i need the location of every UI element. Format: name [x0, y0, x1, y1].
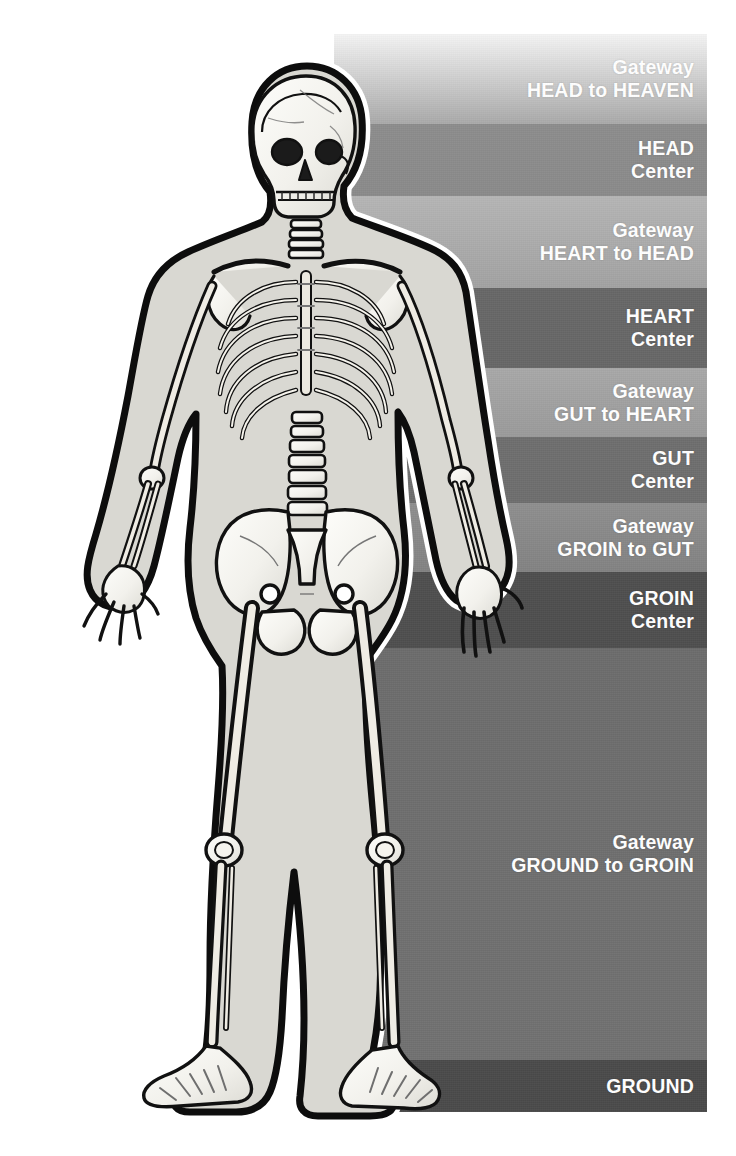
- band-label-primary: Gateway: [612, 56, 694, 79]
- band-label-primary: HEAD: [638, 137, 694, 160]
- band-label-primary: Gateway: [612, 515, 694, 538]
- cervical-vertebrae: [289, 220, 323, 258]
- diagram-canvas: GatewayHEAD to HEAVENHEADCenterGatewayHE…: [0, 0, 736, 1156]
- band-label-primary: Gateway: [612, 831, 694, 854]
- band-label-secondary: Center: [631, 328, 694, 351]
- band-label-primary: GUT: [652, 447, 694, 470]
- band-label-primary: GROIN: [629, 587, 694, 610]
- band-label-secondary: Center: [631, 470, 694, 493]
- band-label-primary: GROUND: [606, 1075, 694, 1098]
- human-skeleton-illustration: [0, 60, 600, 1130]
- band-label-primary: Gateway: [612, 219, 694, 242]
- thoracic-lumbar-vertebrae: [288, 412, 327, 515]
- band-label-secondary: Center: [631, 160, 694, 183]
- band-label-primary: HEART: [626, 305, 694, 328]
- band-label-primary: Gateway: [612, 380, 694, 403]
- band-label-secondary: Center: [631, 610, 694, 633]
